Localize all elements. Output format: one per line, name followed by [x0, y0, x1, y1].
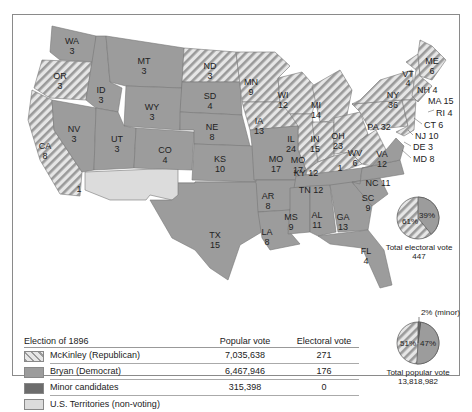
popular-pie-minor-label: 2% (minor): [400, 308, 460, 317]
mckinley-swatch: [24, 351, 44, 362]
svg-text:MS: MS: [284, 212, 298, 222]
svg-text:IN: IN: [311, 134, 320, 144]
svg-text:NH 4: NH 4: [417, 85, 438, 95]
svg-text:MO: MO: [291, 155, 306, 165]
svg-text:CT 6: CT 6: [424, 120, 443, 130]
svg-text:ID: ID: [97, 85, 107, 95]
svg-text:VA: VA: [376, 149, 387, 159]
electoral-vote-pie: 61% 39%: [397, 197, 439, 239]
svg-text:MA 15: MA 15: [428, 96, 454, 106]
svg-text:51%: 51%: [400, 339, 416, 348]
svg-text:17: 17: [271, 164, 281, 174]
svg-text:WV: WV: [348, 148, 363, 158]
svg-text:KS: KS: [214, 154, 226, 164]
svg-text:4: 4: [363, 256, 368, 266]
minor-swatch: [24, 383, 44, 394]
svg-text:8: 8: [265, 201, 270, 211]
svg-text:6: 6: [429, 66, 434, 76]
svg-text:DE 3: DE 3: [413, 142, 433, 152]
svg-text:LA: LA: [261, 227, 272, 237]
svg-text:17: 17: [293, 165, 303, 175]
svg-text:24: 24: [286, 144, 296, 154]
svg-text:3: 3: [57, 81, 62, 91]
svg-text:3: 3: [149, 112, 154, 122]
svg-text:4: 4: [405, 78, 410, 88]
popular-pie-caption: Total popular vote 13,818,982: [376, 368, 460, 386]
svg-text:IL: IL: [287, 134, 295, 144]
svg-text:NY: NY: [387, 90, 400, 100]
election-legend: Election of 1896 Popular vote Electoral …: [24, 332, 359, 412]
state-fl: [318, 230, 392, 288]
svg-text:9: 9: [248, 87, 253, 97]
legend-row-territories: U.S. Territories (non-voting): [24, 396, 359, 412]
svg-text:GA: GA: [336, 212, 349, 222]
svg-text:3: 3: [71, 134, 76, 144]
svg-text:MI: MI: [311, 100, 321, 110]
svg-text:1: 1: [337, 163, 342, 173]
svg-text:12: 12: [278, 100, 288, 110]
svg-text:3: 3: [98, 95, 103, 105]
svg-text:UT: UT: [111, 134, 123, 144]
svg-text:13: 13: [254, 126, 264, 136]
svg-text:3: 3: [207, 71, 212, 81]
svg-text:FL: FL: [361, 246, 372, 256]
svg-text:23: 23: [333, 141, 343, 151]
svg-text:AL: AL: [311, 210, 322, 220]
svg-text:8: 8: [264, 237, 269, 247]
svg-text:MO: MO: [269, 154, 284, 164]
legend-row-mckinley: McKinley (Republican) 7,035,638 271: [24, 348, 359, 364]
svg-text:OH: OH: [331, 131, 345, 141]
legend-col-popular: Popular vote: [201, 336, 289, 346]
svg-text:36: 36: [388, 100, 398, 110]
svg-text:NJ 10: NJ 10: [415, 131, 439, 141]
svg-text:CO: CO: [158, 145, 172, 155]
svg-text:8: 8: [42, 151, 47, 161]
svg-text:3: 3: [141, 66, 146, 76]
svg-text:CA: CA: [39, 141, 52, 151]
territory-swatch: [24, 399, 44, 410]
svg-text:3: 3: [114, 144, 119, 154]
svg-text:PA 32: PA 32: [367, 122, 390, 132]
svg-text:13: 13: [338, 222, 348, 232]
svg-text:MT: MT: [138, 56, 151, 66]
svg-text:14: 14: [311, 110, 321, 120]
legend-title: Election of 1896: [24, 336, 201, 346]
svg-text:TN 12: TN 12: [299, 185, 324, 195]
popular-vote-pie: 51% 47%: [397, 317, 439, 364]
svg-text:NE: NE: [206, 122, 219, 132]
svg-text:1: 1: [76, 184, 81, 194]
svg-text:4: 4: [162, 155, 167, 165]
svg-text:11: 11: [312, 220, 321, 230]
svg-text:AR: AR: [262, 191, 275, 201]
svg-text:TX: TX: [209, 230, 221, 240]
legend-row-bryan: Bryan (Democrat) 6,467,946 176: [24, 364, 359, 380]
svg-text:ND: ND: [204, 61, 217, 71]
svg-text:SC: SC: [362, 193, 375, 203]
svg-text:6: 6: [352, 158, 357, 168]
bryan-swatch: [24, 367, 44, 378]
legend-row-minor: Minor candidates 315,398 0: [24, 380, 359, 396]
svg-text:15: 15: [310, 144, 320, 154]
electoral-pie-caption: Total electoral vote 447: [384, 243, 454, 261]
svg-text:10: 10: [215, 164, 225, 174]
svg-text:RI 4: RI 4: [436, 108, 453, 118]
svg-text:OR: OR: [53, 71, 67, 81]
svg-text:WA: WA: [65, 36, 79, 46]
svg-text:4: 4: [207, 101, 212, 111]
svg-text:NV: NV: [68, 124, 81, 134]
svg-text:61%: 61%: [402, 217, 418, 226]
svg-text:9: 9: [288, 222, 293, 232]
svg-text:9: 9: [365, 203, 370, 213]
svg-text:WI: WI: [278, 90, 289, 100]
svg-text:39%: 39%: [419, 211, 435, 220]
svg-text:47%: 47%: [420, 339, 436, 348]
svg-text:15: 15: [210, 240, 220, 250]
svg-text:MD 8: MD 8: [413, 154, 435, 164]
legend-col-electoral: Electoral vote: [289, 336, 359, 346]
svg-text:IA: IA: [255, 116, 264, 126]
svg-text:MN: MN: [244, 77, 258, 87]
svg-text:12: 12: [377, 159, 387, 169]
svg-text:3: 3: [69, 46, 74, 56]
svg-text:SD: SD: [204, 91, 217, 101]
svg-text:WY: WY: [145, 102, 160, 112]
